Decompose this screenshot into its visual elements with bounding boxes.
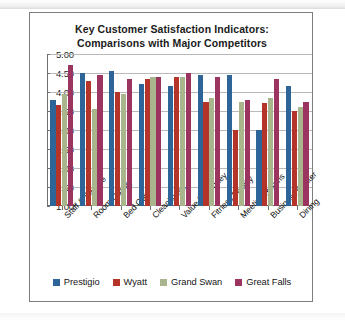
bar — [256, 130, 261, 206]
bar — [286, 86, 291, 206]
legend-item[interactable]: Prestigio — [53, 277, 100, 287]
x-tick-mark — [238, 206, 239, 210]
bar-group — [76, 54, 105, 206]
bar-groups — [47, 54, 312, 206]
chart-frame: Key Customer Satisfaction Indicators: Co… — [29, 12, 313, 302]
bar — [145, 79, 150, 206]
bar — [156, 77, 161, 206]
scan-edge-top — [0, 0, 345, 9]
x-label-cell: Staff & Service — [47, 211, 76, 281]
bar — [56, 105, 61, 206]
legend-label: Prestigio — [64, 277, 100, 287]
chart-title: Key Customer Satisfaction Indicators: Co… — [30, 22, 314, 50]
bar — [168, 86, 173, 206]
bar — [180, 77, 185, 206]
bar — [298, 107, 303, 206]
bar — [97, 75, 102, 206]
legend-swatch-icon — [160, 279, 167, 286]
bar — [139, 84, 144, 206]
bar — [292, 111, 297, 206]
bar — [109, 71, 114, 206]
legend-swatch-icon — [235, 279, 242, 286]
bar — [215, 77, 220, 206]
bar — [68, 65, 73, 206]
bar-group — [106, 54, 135, 206]
bar-group — [165, 54, 194, 206]
bar — [198, 75, 203, 206]
bar — [92, 109, 97, 206]
legend-swatch-icon — [53, 279, 60, 286]
x-label-cell: Fitness Facility — [194, 211, 223, 281]
bar — [186, 73, 191, 206]
bar-group — [283, 54, 312, 206]
x-tick-mark — [91, 206, 92, 210]
bar — [227, 75, 232, 206]
bar — [80, 73, 85, 206]
bar — [115, 92, 120, 206]
legend-item[interactable]: Wyatt — [113, 277, 147, 287]
x-tick-mark — [268, 206, 269, 210]
legend-swatch-icon — [113, 279, 120, 286]
bar — [174, 77, 179, 206]
bar-group — [194, 54, 223, 206]
scan-edge-bottom — [0, 313, 345, 321]
bar — [274, 79, 279, 206]
bar-group — [47, 54, 76, 206]
bar — [150, 77, 155, 206]
legend-label: Grand Swan — [171, 277, 222, 287]
x-label-cell: Dining — [283, 211, 312, 281]
bar — [127, 79, 132, 206]
legend-item[interactable]: Great Falls — [235, 277, 291, 287]
x-tick-mark — [209, 206, 210, 210]
bar — [268, 98, 273, 206]
legend-label: Wyatt — [124, 277, 147, 287]
bar — [245, 100, 250, 206]
x-tick-mark — [150, 206, 151, 210]
bar — [233, 130, 238, 206]
plot-area — [47, 54, 312, 206]
bar-group — [135, 54, 164, 206]
legend-label: Great Falls — [246, 277, 291, 287]
x-tick-mark — [179, 206, 180, 210]
x-tick-mark — [121, 206, 122, 210]
chart-legend: PrestigioWyattGrand SwanGreat Falls — [30, 277, 314, 287]
chart-title-line1: Key Customer Satisfaction Indicators: — [75, 23, 269, 35]
x-axis-labels: Staff & ServiceRoom QualityBed ComfortCl… — [47, 211, 312, 281]
bar — [62, 94, 67, 206]
bar — [121, 94, 126, 206]
x-label-cell: Value for Money — [165, 211, 194, 281]
x-tick-mark — [62, 206, 63, 210]
x-label-cell: Cleanliness — [135, 211, 164, 281]
bar — [262, 103, 267, 206]
x-label-cell: Room Quality — [76, 211, 105, 281]
bar — [209, 98, 214, 206]
bar-group — [224, 54, 253, 206]
x-label-cell: Meeting Rooms — [224, 211, 253, 281]
bar — [303, 102, 308, 207]
legend-item[interactable]: Grand Swan — [160, 277, 222, 287]
x-tick-mark — [297, 206, 298, 210]
bar — [50, 100, 55, 206]
x-label-cell: Business Center — [253, 211, 282, 281]
bar — [239, 102, 244, 207]
bar-group — [253, 54, 282, 206]
x-label-cell: Bed Comfort — [106, 211, 135, 281]
bar — [86, 81, 91, 206]
bar — [203, 102, 208, 207]
